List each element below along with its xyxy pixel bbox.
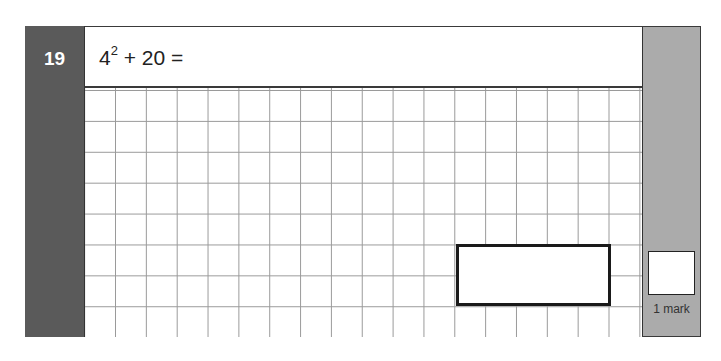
- question-header: 42 + 20 =: [85, 27, 642, 88]
- answer-box[interactable]: [456, 244, 611, 306]
- question-text: 42 + 20 =: [99, 45, 183, 70]
- question-number-panel: 19: [25, 26, 85, 337]
- question-number: 19: [25, 48, 84, 70]
- question-rest: + 20 =: [118, 46, 183, 69]
- question-base: 4: [99, 46, 111, 69]
- marks-panel: 1 mark: [642, 27, 700, 336]
- mark-label: 1 mark: [643, 302, 700, 316]
- mark-box: [648, 251, 695, 295]
- question-exponent: 2: [111, 43, 118, 58]
